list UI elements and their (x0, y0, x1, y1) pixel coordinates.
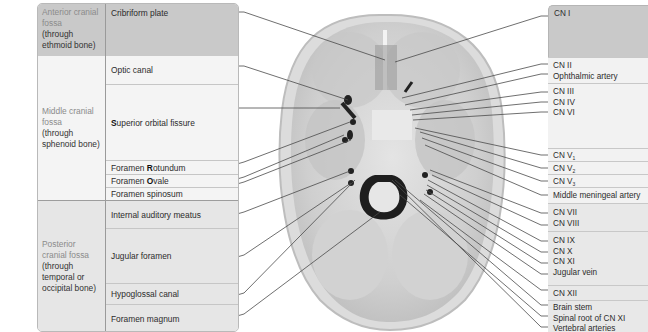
region-label: Middle cranial fossa (through sphenoid b… (38, 56, 106, 200)
region-bone: (through sphenoid bone) (42, 128, 101, 150)
structure-group: CN III CN IV CN VI (548, 83, 648, 148)
structure-group: CN IX CN X CN XI Jugular vein (548, 231, 648, 285)
structure-group: CN VII CN VIII (548, 203, 648, 231)
region-name: Anterior cranial fossa (42, 7, 101, 29)
region-label: Posterior cranial fossa (through tempora… (38, 201, 106, 332)
region-label: Anterior cranial fossa (through ethmoid … (38, 4, 106, 56)
table-row: Hypoglossal canal (106, 283, 238, 304)
region-name: Middle cranial fossa (42, 106, 101, 128)
table-row: Foramen Rotundum (106, 160, 238, 174)
posterior-cranial-fossa: Posterior cranial fossa (through tempora… (38, 200, 238, 332)
middle-cranial-fossa: Middle cranial fossa (through sphenoid b… (38, 56, 238, 200)
table-row: Optic canal (106, 56, 238, 84)
structure-group: CN XII (548, 285, 648, 300)
structure-group: Middle meningeal artery (548, 187, 648, 203)
structure-group: CN II Ophthalmic artery (548, 57, 648, 83)
foramina-table: Anterior cranial fossa (through ethmoid … (37, 3, 239, 332)
table-row: Jugular foramen (106, 228, 238, 283)
table-row: Foramen magnum (106, 304, 238, 332)
structure-group: CN V3 (548, 174, 648, 187)
table-row: Internal auditory meatus (106, 201, 238, 228)
region-bone: (through temporal or occipital bone) (42, 261, 101, 294)
region-name: Posterior cranial fossa (42, 239, 101, 261)
structure-group: CN V1 (548, 148, 648, 161)
structure-group: CN I (548, 5, 648, 57)
structures-panel: CN I CN II Ophthalmic artery CN III CN I… (548, 5, 648, 332)
region-bone: (through ethmoid bone) (42, 29, 101, 51)
table-row: Superior orbital fissure (106, 84, 238, 160)
table-row: Cribriform plate (106, 4, 238, 56)
table-row: Foramen Ovale (106, 174, 238, 187)
table-row: Foramen spinosum (106, 187, 238, 200)
structure-group: CN V2 (548, 161, 648, 174)
anterior-cranial-fossa: Anterior cranial fossa (through ethmoid … (38, 4, 238, 57)
structure-group: Brain stem Spinal root of CN XI Vertebra… (548, 300, 648, 332)
